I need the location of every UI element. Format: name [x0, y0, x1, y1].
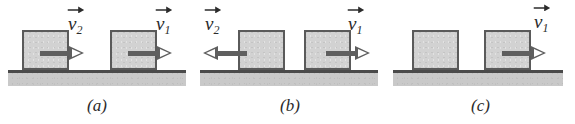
vector-overbar-arrow-icon	[155, 5, 172, 13]
arrow-shaft	[40, 51, 69, 56]
velocity-label-v1-a: v1	[156, 14, 170, 36]
panel-caption-a: (a)	[0, 96, 194, 116]
velocity-arrow-v2-b	[203, 46, 247, 60]
velocity-arrow-v1-c	[502, 46, 546, 60]
ground-surface-a	[8, 70, 186, 86]
arrow-shaft	[128, 51, 157, 56]
panel-b: v2 v1 (b)	[194, 0, 386, 124]
vector-overbar-arrow-icon	[533, 3, 550, 11]
vector-overbar-arrow-icon	[67, 5, 84, 13]
velocity-label-v1-c: v1	[534, 12, 548, 34]
panel-caption-b: (b)	[194, 96, 386, 116]
panel-c: v1 (c)	[386, 0, 575, 124]
velocity-subscript: 2	[213, 23, 219, 37]
arrow-head-fill	[358, 49, 367, 57]
arrow-shaft	[326, 51, 355, 56]
physics-figure: v2 v1 (a)	[0, 0, 575, 124]
left-block-c	[412, 30, 459, 70]
velocity-subscript: 1	[164, 23, 170, 37]
velocity-label-v2-a: v2	[68, 14, 82, 36]
arrow-shaft	[502, 51, 531, 56]
panel-caption-c: (c)	[386, 96, 575, 116]
ground-surface-b	[200, 70, 378, 86]
arrow-head-fill	[206, 49, 215, 57]
velocity-subscript: 1	[356, 23, 362, 37]
ground-surface-c	[393, 70, 563, 86]
arrow-head-fill	[160, 49, 169, 57]
velocity-subscript: 1	[542, 21, 548, 35]
arrow-head-fill	[72, 49, 81, 57]
arrow-head-fill	[534, 49, 543, 57]
velocity-arrow-v1-b	[326, 46, 370, 60]
arrow-shaft	[218, 51, 247, 56]
velocity-arrow-v1-a	[128, 46, 172, 60]
panel-a: v2 v1 (a)	[0, 0, 194, 124]
velocity-arrow-v2-a	[40, 46, 84, 60]
vector-overbar-arrow-icon	[204, 5, 221, 13]
velocity-label-v1-b: v1	[348, 14, 362, 36]
velocity-label-v2-b: v2	[205, 14, 219, 36]
vector-overbar-arrow-icon	[347, 5, 364, 13]
velocity-subscript: 2	[76, 23, 82, 37]
